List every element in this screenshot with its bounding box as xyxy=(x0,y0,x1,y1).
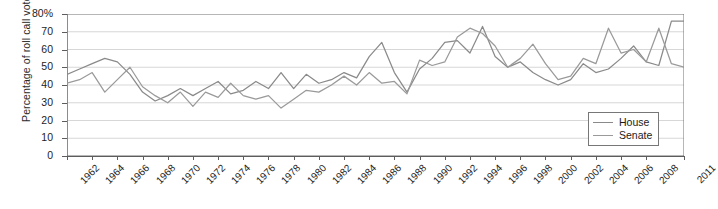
x-tick-mark xyxy=(294,156,295,160)
x-tick-label: 1964 xyxy=(104,163,127,186)
x-tick-label: 1978 xyxy=(280,163,303,186)
x-tick-mark xyxy=(193,156,194,160)
x-tick-mark xyxy=(646,156,647,160)
y-tick-label: 10 xyxy=(41,132,53,143)
x-tick-label: 1994 xyxy=(481,163,504,186)
legend-label-house: House xyxy=(619,117,649,128)
x-tick-label: 1990 xyxy=(431,163,454,186)
x-tick-mark xyxy=(684,156,685,160)
series-line-house xyxy=(67,21,684,101)
x-tick-label: 1968 xyxy=(154,163,177,186)
x-tick-label: 2000 xyxy=(557,163,580,186)
x-tick-label: 1970 xyxy=(179,163,202,186)
x-tick-mark xyxy=(470,156,471,160)
x-tick-mark xyxy=(168,156,169,160)
legend-label-senate: Senate xyxy=(619,130,652,141)
y-tick-label: 20 xyxy=(41,115,53,126)
x-tick-mark xyxy=(268,156,269,160)
x-tick-mark xyxy=(420,156,421,160)
x-tick-label: 1980 xyxy=(305,163,328,186)
y-tick-label: 40 xyxy=(41,79,53,90)
chart-legend: House Senate xyxy=(588,112,659,146)
x-tick-mark xyxy=(92,156,93,160)
x-tick-mark xyxy=(319,156,320,160)
x-tick-label: 1962 xyxy=(79,163,102,186)
x-tick-mark xyxy=(571,156,572,160)
x-tick-label: 1972 xyxy=(204,163,227,186)
x-tick-label: 1966 xyxy=(129,163,152,186)
legend-line-house-icon xyxy=(593,122,613,123)
x-tick-mark xyxy=(243,156,244,160)
x-tick-label: 2002 xyxy=(582,163,605,186)
legend-item-senate: Senate xyxy=(593,129,652,142)
y-axis-tick-labels: 80%706050403020100 xyxy=(0,0,63,209)
x-tick-label: 1996 xyxy=(507,163,530,186)
x-tick-label: 1988 xyxy=(406,163,429,186)
y-tick-label: 60 xyxy=(41,44,53,55)
x-tick-mark xyxy=(596,156,597,160)
series-line-senate xyxy=(67,28,684,108)
x-tick-label: 1974 xyxy=(230,163,253,186)
x-tick-mark xyxy=(369,156,370,160)
y-tick-label: 0 xyxy=(47,150,53,161)
x-tick-mark xyxy=(218,156,219,160)
y-tick-label: 50 xyxy=(41,61,53,72)
x-tick-label: 2004 xyxy=(607,163,630,186)
y-tick-label: 30 xyxy=(41,97,53,108)
x-tick-label: 1984 xyxy=(356,163,379,186)
y-tick-label: 70 xyxy=(41,26,53,37)
x-tick-mark xyxy=(495,156,496,160)
x-axis-spine xyxy=(67,156,684,157)
x-tick-label: 2008 xyxy=(658,163,681,186)
x-tick-label: 1992 xyxy=(456,163,479,186)
x-tick-mark xyxy=(143,156,144,160)
x-tick-label: 1986 xyxy=(381,163,404,186)
legend-line-senate-icon xyxy=(593,135,613,136)
x-tick-mark xyxy=(545,156,546,160)
x-tick-label: 1976 xyxy=(255,163,278,186)
x-tick-label: 2011 xyxy=(695,163,717,185)
y-tick-label: 80% xyxy=(32,8,53,19)
x-tick-mark xyxy=(117,156,118,160)
y-tick-mark xyxy=(62,156,67,157)
x-tick-mark xyxy=(344,156,345,160)
legend-item-house: House xyxy=(593,116,652,129)
x-tick-label: 2006 xyxy=(633,163,656,186)
x-tick-mark xyxy=(520,156,521,160)
x-tick-label: 1998 xyxy=(532,163,555,186)
x-tick-mark xyxy=(445,156,446,160)
x-tick-mark xyxy=(394,156,395,160)
x-tick-mark xyxy=(621,156,622,160)
x-tick-mark xyxy=(67,156,68,160)
x-tick-label: 1982 xyxy=(330,163,353,186)
